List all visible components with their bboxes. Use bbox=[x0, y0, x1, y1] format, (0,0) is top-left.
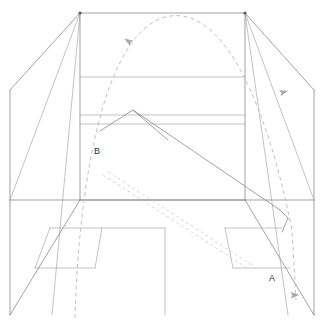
vertex-dot-top-left bbox=[78, 11, 81, 14]
left-corner-ray-lower bbox=[52, 13, 80, 315]
right-fold-edge-lower bbox=[282, 218, 288, 232]
room-shell bbox=[10, 13, 314, 315]
arrow-descending-lower-icon bbox=[290, 291, 299, 298]
guide-line-upper bbox=[103, 175, 247, 268]
chevron-shape bbox=[100, 110, 168, 140]
floor-panels bbox=[35, 228, 290, 315]
long-diagonal-edge bbox=[133, 110, 280, 210]
right-ceiling-edge bbox=[245, 13, 314, 90]
right-corner-ray-lower bbox=[245, 13, 288, 315]
left-corner-ray-upper bbox=[10, 13, 80, 200]
dashed-guide-lines bbox=[103, 172, 252, 268]
point-label-b: B bbox=[94, 146, 100, 156]
back-wall bbox=[80, 13, 245, 200]
trajectory-group bbox=[75, 16, 300, 318]
guide-line-lower bbox=[108, 172, 252, 265]
panel-left-inner-vertical bbox=[95, 228, 102, 268]
arrow-ascending-icon bbox=[122, 36, 133, 46]
chevron-peak-object bbox=[100, 110, 288, 232]
right-corner-ray-upper bbox=[245, 13, 314, 200]
arrow-descending-upper-icon bbox=[279, 88, 289, 97]
right-fold-edge-upper bbox=[280, 210, 288, 218]
point-label-a: A bbox=[269, 273, 275, 283]
point-labels: A B bbox=[94, 146, 275, 283]
wireframe-scene: A B bbox=[0, 0, 325, 321]
diagram-root: A B bbox=[0, 0, 325, 321]
floor-line-right bbox=[245, 200, 314, 315]
floor-line-left bbox=[10, 200, 80, 315]
vertex-dot-top-right bbox=[243, 11, 246, 14]
perspective-rays bbox=[10, 13, 314, 315]
left-ceiling-edge bbox=[10, 13, 80, 90]
